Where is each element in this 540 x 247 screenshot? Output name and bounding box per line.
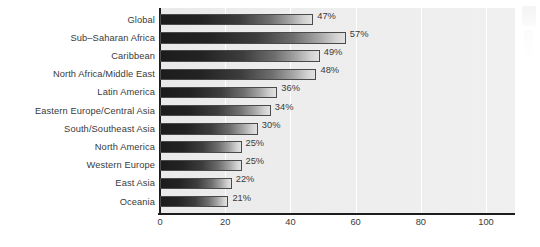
bar-container [160,50,320,61]
bar-value-label: 36% [281,83,300,94]
bar [160,178,232,189]
bar-value-label: 47% [317,11,336,22]
bar-container [160,141,242,152]
bar-container [160,178,232,189]
x-tick-label: 0 [140,217,180,227]
bar [160,123,258,134]
x-tick-label: 100 [466,217,506,227]
category-label: Western Europe [87,156,155,174]
category-label: Oceania [120,193,155,211]
bar-value-label: 21% [232,193,251,204]
x-tick-label: 20 [205,217,245,227]
bar-row: South/Southeast Asia30% [0,120,540,138]
bar-row: Eastern Europe/Central Asia34% [0,102,540,120]
bar-row: Western Europe25% [0,156,540,174]
category-label: Latin America [97,83,155,101]
x-tick-label: 60 [336,217,376,227]
bar-value-label: 49% [324,47,343,58]
bar-container [160,69,316,80]
category-label: North Africa/Middle East [53,65,155,83]
bar-container [160,196,228,207]
bar [160,105,271,116]
scan-artifact [522,6,536,26]
bar-row: Oceania21% [0,193,540,211]
bar [160,69,316,80]
bar-container [160,87,277,98]
bar-chart: Global47%Sub–Saharan Africa57%Caribbean4… [0,0,540,247]
bar-row: East Asia22% [0,174,540,192]
scan-artifact-secondary [524,30,533,64]
bar-value-label: 57% [350,29,369,40]
category-label: Caribbean [111,47,155,65]
bar [160,87,277,98]
bar-value-label: 34% [275,102,294,113]
category-label: North America [95,138,155,156]
category-label: Global [128,11,155,29]
x-tick-label: 40 [270,217,310,227]
bar [160,32,346,43]
bar-row: North Africa/Middle East48% [0,65,540,83]
bar-container [160,14,313,25]
bar-container [160,160,242,171]
bar-value-label: 48% [320,65,339,76]
bar-container [160,32,346,43]
category-label: Sub–Saharan Africa [71,29,156,47]
bar-value-label: 25% [246,138,265,149]
category-label: East Asia [115,174,155,192]
category-label: South/Southeast Asia [64,120,155,138]
category-label: Eastern Europe/Central Asia [35,102,155,120]
bar-container [160,105,271,116]
bar [160,160,242,171]
bar-value-label: 22% [236,174,255,185]
bar [160,14,313,25]
bar [160,50,320,61]
bar [160,141,242,152]
bar [160,196,228,207]
bar-row: North America25% [0,138,540,156]
bar-value-label: 25% [246,156,265,167]
x-tick-label: 80 [401,217,441,227]
bar-row: Latin America36% [0,83,540,101]
bar-row: Sub–Saharan Africa57% [0,29,540,47]
bar-row: Caribbean49% [0,47,540,65]
bar-value-label: 30% [262,120,281,131]
bar-container [160,123,258,134]
x-axis-line [158,213,515,215]
bar-row: Global47% [0,11,540,29]
